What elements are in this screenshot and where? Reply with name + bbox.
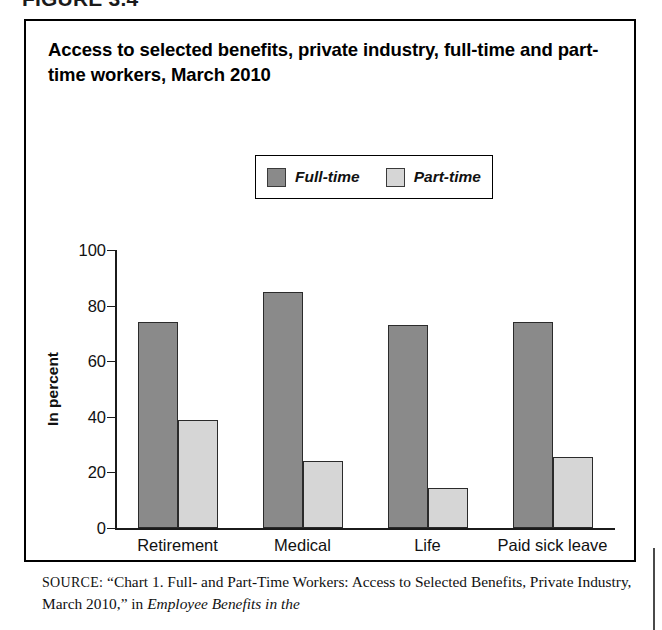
y-tick-mark — [107, 250, 115, 251]
y-tick-label: 100 — [78, 241, 106, 260]
source-kicker: SOURCE: — [42, 575, 103, 590]
legend-item-part-time: Part-time — [386, 168, 481, 187]
y-tick-label: 80 — [88, 296, 106, 315]
x-axis-label: Paid sick leave — [497, 536, 607, 555]
bar-full-time — [263, 292, 303, 528]
y-tick-mark — [107, 361, 115, 362]
y-tick-mark — [107, 472, 115, 473]
bar-part-time — [428, 488, 468, 528]
legend-swatch-part-time — [386, 168, 405, 187]
chart-panel: Access to selected benefits, private ind… — [24, 19, 636, 562]
y-tick-mark — [107, 417, 115, 418]
bar-group — [240, 250, 365, 528]
y-tick-mark — [107, 528, 115, 529]
source-text: “Chart 1. Full- and Part-Time Workers: A… — [42, 573, 631, 612]
bar-group — [490, 250, 615, 528]
chart-legend: Full-time Part-time — [255, 155, 493, 199]
plot-area: In percent 020406080100 RetirementMedica… — [115, 250, 615, 528]
y-axis-title: In percent — [44, 352, 62, 426]
chart-title: Access to selected benefits, private ind… — [48, 37, 608, 87]
bar-full-time — [513, 322, 553, 528]
legend-swatch-full-time — [267, 168, 286, 187]
bar-group — [365, 250, 490, 528]
bar-full-time — [138, 322, 178, 528]
source-publication-title: Employee Benefits in the — [147, 595, 300, 612]
legend-label-part-time: Part-time — [414, 168, 481, 186]
x-axis-label: Life — [414, 536, 441, 555]
figure-header: FIGURE 3.4 — [22, 0, 138, 11]
bar-part-time — [178, 420, 218, 528]
bar-part-time — [553, 457, 593, 528]
y-tick-label: 0 — [97, 519, 106, 538]
bar-part-time — [303, 461, 343, 528]
source-note: SOURCE: “Chart 1. Full- and Part-Time Wo… — [42, 572, 642, 614]
y-tick-label: 60 — [88, 352, 106, 371]
page-edge-rule — [653, 548, 655, 630]
bar-group — [115, 250, 240, 528]
x-axis-label: Retirement — [137, 536, 218, 555]
y-tick-mark — [107, 306, 115, 307]
legend-label-full-time: Full-time — [295, 168, 360, 186]
legend-item-full-time: Full-time — [267, 168, 360, 187]
bar-full-time — [388, 325, 428, 528]
x-axis-line — [115, 528, 615, 530]
y-tick-label: 40 — [88, 407, 106, 426]
y-tick-label: 20 — [88, 463, 106, 482]
x-axis-label: Medical — [274, 536, 331, 555]
